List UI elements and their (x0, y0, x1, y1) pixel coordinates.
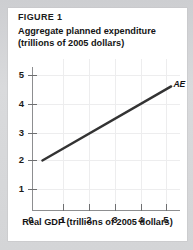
y-tick-label-2: 2 (19, 155, 24, 165)
x-axis-title: Real GDP (trillions of 2005 dollars) (8, 217, 187, 227)
figure-label: FIGURE 1 (18, 12, 62, 22)
y-tick-label-5: 5 (19, 70, 24, 80)
plot-area: 5 4 3 2 1 1 2 3 (32, 59, 180, 211)
y-tick-label-3: 3 (19, 128, 24, 138)
y-tick-label-4: 4 (19, 99, 24, 109)
y-tick-label-1: 1 (19, 184, 24, 194)
figure-screenshot: FIGURE 1 Aggregate planned expenditure (… (0, 0, 193, 250)
y-axis-title-line2: (trillions of 2005 dollars) (18, 38, 184, 50)
ae-line-chart (32, 59, 180, 211)
ae-series-line (42, 86, 171, 160)
y-axis-title-line1: Aggregate planned expenditure (18, 26, 184, 38)
y-axis-title: Aggregate planned expenditure (trillions… (18, 26, 184, 49)
ae-series-label: AE (173, 79, 185, 89)
figure-card: FIGURE 1 Aggregate planned expenditure (… (8, 8, 187, 241)
